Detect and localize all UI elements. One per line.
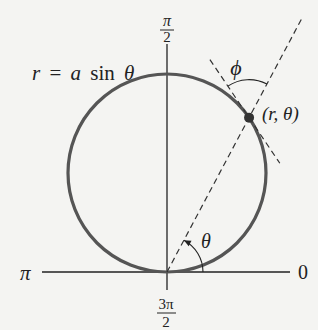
point-label: (r, θ)	[262, 103, 299, 125]
curve-label-eq: =	[49, 61, 61, 85]
axis-label-pi-over-2-den: 2	[163, 29, 171, 45]
curve-label-theta: θ	[124, 61, 134, 85]
point-r-theta	[244, 113, 254, 123]
curve-label-a: a	[71, 61, 82, 85]
axis-label-3pi-over-2-num: 3π	[158, 296, 174, 312]
axis-label-pi: π	[20, 261, 31, 285]
phi-label: ϕ	[230, 55, 241, 80]
phi-angle-arc	[228, 80, 267, 86]
theta-label: θ	[201, 230, 211, 252]
curve-label: r = a sin θ	[32, 61, 134, 85]
curve-label-sin: sin	[90, 61, 115, 85]
diagram-canvas: r = a sin θ (r, θ) ϕ θ 0 π π 2 3π 2	[0, 0, 318, 330]
axis-label-3pi-over-2-den: 2	[162, 314, 170, 330]
polar-diagram: r = a sin θ (r, θ) ϕ θ 0 π π 2 3π 2	[0, 0, 318, 330]
curve-label-r: r	[32, 61, 41, 85]
axis-label-zero: 0	[298, 261, 308, 283]
axis-label-pi-over-2-num: π	[163, 12, 172, 29]
